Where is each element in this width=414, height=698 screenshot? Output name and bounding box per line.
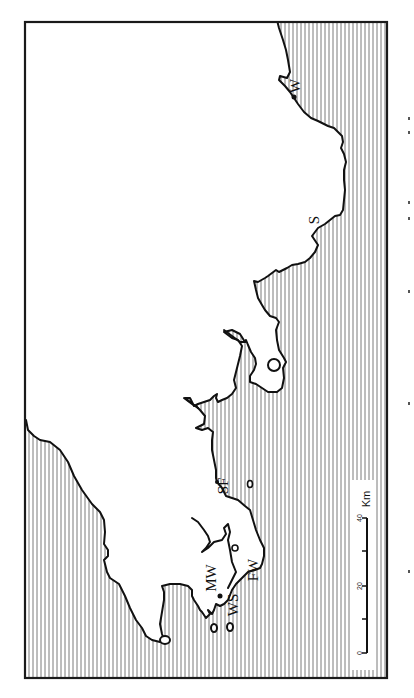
coastal-map: W S O SF MW WS FW 0 20 40 Km bbox=[0, 0, 414, 698]
label-SF: SF bbox=[215, 478, 231, 495]
scale-tick-40: 40 bbox=[356, 514, 363, 522]
island bbox=[160, 636, 170, 644]
island bbox=[232, 545, 238, 551]
settlement-dot-MW bbox=[218, 594, 223, 599]
scale-tick-20: 20 bbox=[356, 582, 363, 590]
label-FW: FW bbox=[245, 558, 261, 581]
island bbox=[211, 624, 217, 632]
label-W: W bbox=[287, 78, 303, 93]
caption-fragment bbox=[408, 201, 410, 204]
caption-fragment bbox=[408, 131, 410, 134]
island bbox=[227, 623, 233, 631]
scale-bar: 0 20 40 Km bbox=[352, 480, 374, 670]
settlement-dot-W bbox=[292, 95, 297, 100]
caption-fragment bbox=[408, 290, 410, 293]
label-WS: WS bbox=[225, 594, 241, 617]
caption-fragment bbox=[408, 217, 410, 220]
scale-tick-0: 0 bbox=[356, 651, 363, 655]
lagoon-O bbox=[268, 359, 280, 371]
scale-unit: Km bbox=[360, 491, 372, 508]
caption-fragment bbox=[408, 570, 410, 573]
caption-fragment bbox=[408, 117, 410, 120]
caption-fragment bbox=[408, 402, 410, 405]
label-MW: MW bbox=[203, 563, 219, 591]
island bbox=[248, 481, 253, 488]
label-S: S bbox=[306, 216, 322, 224]
